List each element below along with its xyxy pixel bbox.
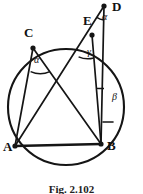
vertex-dot-A (12, 143, 17, 148)
vertex-label-C: C (24, 26, 33, 39)
angle-label-gamma-at-E: γ (87, 47, 91, 57)
segment-chord-EB (92, 35, 101, 144)
vertex-dot-D (101, 3, 106, 8)
segment-chord-CB (33, 48, 101, 144)
angle-label-alpha-at-C: α (34, 55, 39, 65)
angle-arc-alpha-at-C-icon (31, 72, 50, 74)
vertex-dot-B (98, 141, 103, 146)
vertex-label-E: E (83, 14, 92, 27)
geometry-drawing (0, 0, 143, 194)
figure-caption: Fig. 2.102 (0, 183, 143, 194)
angle-arc-gamma-at-E-icon (79, 57, 94, 59)
geometry-figure: A B C E D α α γ β Fig. 2.102 (0, 0, 143, 194)
angle-label-beta-at-B: β (112, 92, 117, 102)
vertex-dot-C (30, 45, 35, 50)
vertex-label-D: D (112, 0, 121, 13)
vertex-label-B: B (107, 139, 116, 152)
vertex-dot-E (89, 32, 94, 37)
segment-line-DB (101, 6, 104, 144)
angle-label-alpha-at-D: α (102, 12, 107, 22)
vertex-label-A: A (3, 140, 12, 153)
segment-chord-AB (15, 144, 101, 146)
